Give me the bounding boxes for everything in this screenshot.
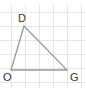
vertex-label-o: O [3, 71, 12, 83]
diagram-canvas: D O G [0, 0, 86, 88]
vertex-label-d: D [18, 12, 26, 24]
vertex-label-g: G [70, 71, 79, 83]
